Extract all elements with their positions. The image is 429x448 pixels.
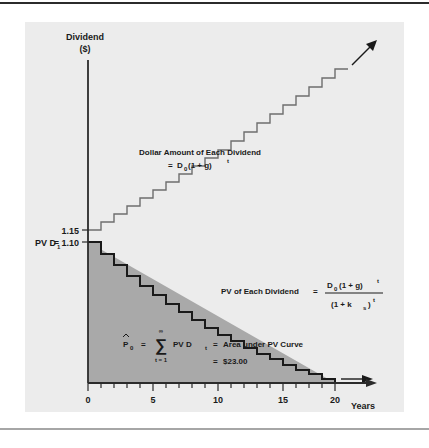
price-annotation-term-subscript: t	[205, 345, 207, 351]
pv-annotation-numerator-d: D	[327, 281, 333, 290]
price-annotation-eq1: =	[141, 340, 146, 349]
price-annotation-p: P	[123, 340, 129, 349]
pv-annotation-numerator-rest: (1 + g)	[339, 281, 363, 290]
summation-upper-limit: ∞	[159, 328, 163, 334]
summation-symbol: ∑	[155, 336, 167, 355]
dividend-annotation-d: D	[177, 161, 183, 170]
x-tick-label-0: 0	[85, 395, 90, 405]
y-axis-title-line2: ($)	[80, 44, 91, 54]
figure-panel: Dividend ($) Years 0 5 10 15 20 1.15 PV …	[25, 22, 404, 412]
pv-annotation-denominator-close: )	[368, 300, 371, 309]
bottom-divider	[0, 428, 429, 430]
price-annotation-value: $23.00	[223, 357, 248, 366]
dividend-annotation-superscript: t	[227, 158, 229, 164]
y-label-lower-value: = 1.10	[54, 238, 79, 248]
price-annotation-term: PV D	[173, 340, 192, 349]
pv-annotation-numerator-superscript: t	[377, 278, 379, 284]
pv-annotation-eq: =	[313, 287, 318, 296]
dividend-annotation-line1: Dollar Amount of Each Dividend	[139, 148, 261, 157]
pv-annotation-label: PV of Each Dividend	[221, 287, 299, 296]
x-tick-label-5: 5	[150, 395, 155, 405]
y-label-upper-value: 1.15	[61, 226, 79, 236]
summation-lower-limit: t = 1	[155, 357, 168, 363]
x-tick-label-20: 20	[330, 395, 340, 405]
top-divider	[0, 2, 429, 4]
price-annotation-eq2: =	[213, 340, 218, 349]
x-tick-label-10: 10	[213, 395, 223, 405]
dividend-pv-chart: Dividend ($) Years 0 5 10 15 20 1.15 PV …	[25, 22, 404, 412]
price-annotation-area-text: Area under PV Curve	[223, 340, 304, 349]
x-tick-label-15: 15	[278, 395, 288, 405]
y-axis-title-line1: Dividend	[66, 32, 104, 42]
dividend-annotation-eq: =	[168, 161, 173, 170]
dividend-annotation-rest: (1 + g)	[188, 161, 212, 170]
x-axis-title: Years	[351, 401, 375, 411]
price-annotation-eq3: =	[213, 357, 218, 366]
pv-annotation-denominator-open: (1 + k	[331, 300, 352, 309]
pv-annotation-denominator-superscript: t	[373, 297, 375, 303]
